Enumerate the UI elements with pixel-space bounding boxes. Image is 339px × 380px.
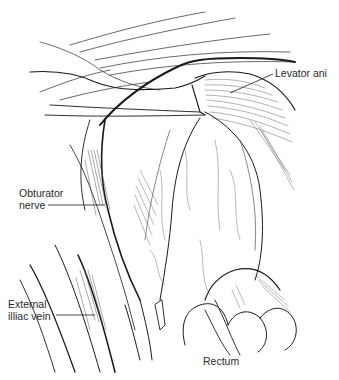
organ-texture: [150, 140, 240, 295]
label-obturator-nerve-line1: Obturator: [19, 187, 63, 199]
rectum-outline: [205, 269, 280, 300]
label-external-iliac-vein-line2: illiac vein: [8, 310, 51, 322]
leader-levator-ani: [230, 74, 273, 93]
label-levator-ani-text: Levator ani: [275, 67, 327, 79]
label-obturator-nerve-line2: nerve: [19, 199, 63, 211]
label-obturator-nerve: Obturator nerve: [19, 187, 63, 211]
fascia-lines: [40, 12, 295, 100]
label-rectum: Rectum: [203, 355, 239, 367]
label-levator-ani: Levator ani: [275, 67, 327, 79]
label-rectum-text: Rectum: [203, 355, 239, 367]
levator-hatching: [205, 79, 292, 142]
label-external-iliac-vein-line1: External: [8, 298, 47, 310]
label-external-iliac-vein: External illiac vein: [8, 298, 51, 322]
